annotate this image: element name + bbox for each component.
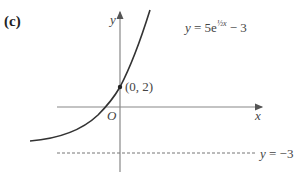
exponential-curve (30, 10, 150, 141)
origin-label: O (107, 108, 117, 123)
equation-label: y = 5e½x − 3 (183, 19, 247, 35)
x-axis-label: x (254, 108, 261, 123)
graph: (c) x y O y = −3 (0, 2) y = 5e½x − 3 (0, 0, 306, 175)
part-label: (c) (4, 13, 21, 30)
point-label: (0, 2) (125, 79, 153, 94)
intercept-point (118, 85, 122, 89)
asymptote-label: y = −3 (258, 146, 293, 161)
y-axis-label: y (108, 12, 116, 27)
